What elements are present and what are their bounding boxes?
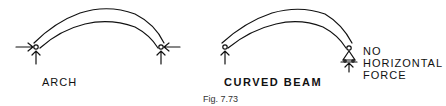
figure-caption: Fig. 7.73 [203, 94, 238, 104]
curved-beam-diagram [221, 9, 357, 72]
note-line-1: NO [363, 45, 382, 57]
arch-label: ARCH [42, 76, 77, 88]
curved-beam-label: CURVED BEAM [224, 76, 322, 88]
note-line-2: HORIZONTAL [363, 57, 443, 69]
arch-diagram [16, 9, 180, 64]
note-line-3: FORCE [363, 69, 407, 81]
